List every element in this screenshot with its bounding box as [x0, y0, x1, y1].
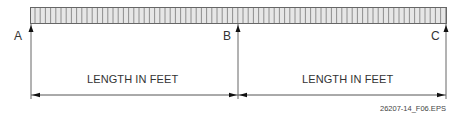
arrow-left-icon	[239, 93, 247, 97]
arrow-left-icon	[32, 93, 40, 97]
arrow-up-icon	[29, 25, 34, 32]
point-label-c: C	[431, 29, 440, 43]
dimension-label-ab: LENGTH IN FEET	[87, 73, 178, 85]
arrow-right-icon	[437, 93, 445, 97]
extension-lines	[31, 24, 446, 99]
point-label-a: A	[14, 29, 22, 43]
arrow-up-icon	[444, 25, 449, 32]
dimension-label-bc: LENGTH IN FEET	[302, 73, 393, 85]
point-label-b: B	[223, 29, 231, 43]
figure-id: 26207-14_F06.EPS	[380, 104, 446, 113]
arrow-up-icon	[236, 25, 241, 32]
arrow-right-icon	[229, 93, 237, 97]
measured-bar	[31, 8, 447, 24]
diagram-canvas	[0, 0, 459, 118]
